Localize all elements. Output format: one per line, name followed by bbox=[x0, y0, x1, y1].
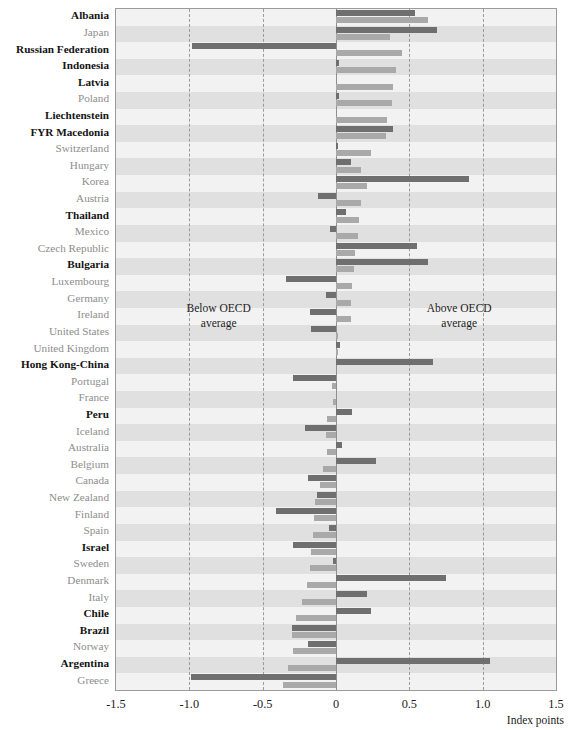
bar-series-2 bbox=[310, 565, 336, 571]
bar-series-1 bbox=[330, 226, 336, 232]
bar-series-2 bbox=[311, 549, 336, 555]
category-label: Australia bbox=[68, 442, 109, 453]
bar-series-2 bbox=[336, 333, 338, 339]
bar-series-1 bbox=[192, 43, 336, 49]
bar-series-1 bbox=[336, 126, 393, 132]
bar-series-2 bbox=[327, 449, 336, 455]
bar-series-2 bbox=[336, 150, 371, 156]
category-label: Israel bbox=[82, 542, 109, 553]
bar-series-1 bbox=[276, 508, 336, 514]
category-label: Ireland bbox=[77, 309, 109, 320]
bar-series-2 bbox=[336, 117, 387, 123]
bar-series-1 bbox=[293, 542, 336, 548]
bar-series-2 bbox=[323, 466, 336, 472]
bar-series-2 bbox=[336, 200, 361, 206]
category-label: Argentina bbox=[61, 658, 109, 669]
category-label: Indonesia bbox=[62, 60, 109, 71]
category-label: Japan bbox=[84, 27, 109, 38]
category-label: Hungary bbox=[70, 160, 109, 171]
bar-series-1 bbox=[310, 309, 336, 315]
bar-series-2 bbox=[336, 133, 386, 139]
bar-series-2 bbox=[326, 432, 336, 438]
bar-series-1 bbox=[336, 243, 417, 249]
gridline bbox=[263, 9, 265, 690]
category-label: Portugal bbox=[71, 376, 109, 387]
category-label: Poland bbox=[78, 93, 109, 104]
bar-series-2 bbox=[327, 416, 336, 422]
bar-series-1 bbox=[333, 558, 336, 564]
bar-series-2 bbox=[293, 648, 336, 654]
category-label: Austria bbox=[76, 193, 109, 204]
bar-series-1 bbox=[336, 591, 367, 597]
bar-series-2 bbox=[336, 316, 351, 322]
bar-series-1 bbox=[308, 475, 336, 481]
bar-series-2 bbox=[336, 283, 352, 289]
bar-series-2 bbox=[336, 84, 393, 90]
category-label: Thailand bbox=[65, 210, 109, 221]
x-axis-tick: 1.5 bbox=[532, 697, 570, 712]
bar-series-1 bbox=[336, 658, 490, 664]
category-label: Latvia bbox=[78, 77, 109, 88]
bar-series-2 bbox=[336, 250, 355, 256]
bar-series-1 bbox=[336, 442, 342, 448]
x-axis-title: Index points bbox=[507, 714, 564, 726]
bar-series-2 bbox=[288, 665, 336, 671]
x-axis-tick: 1.0 bbox=[459, 697, 507, 712]
category-label: Belgium bbox=[70, 459, 109, 470]
bar-series-2 bbox=[314, 515, 336, 521]
category-label: Luxembourg bbox=[51, 276, 109, 287]
bar-series-1 bbox=[336, 359, 433, 365]
category-label: Norway bbox=[73, 641, 109, 652]
bar-series-1 bbox=[336, 259, 428, 265]
x-axis-tick: 0.5 bbox=[385, 697, 433, 712]
category-label: France bbox=[79, 392, 109, 403]
bar-series-2 bbox=[283, 682, 336, 688]
category-label: Canada bbox=[75, 475, 109, 486]
category-label: United States bbox=[49, 326, 109, 337]
category-label: Germany bbox=[67, 293, 109, 304]
bar-series-2 bbox=[333, 399, 336, 405]
bar-series-2 bbox=[320, 482, 336, 488]
category-label: Korea bbox=[82, 176, 109, 187]
gridline bbox=[189, 9, 191, 690]
x-axis-tick: -1.5 bbox=[92, 697, 140, 712]
category-label: Bulgaria bbox=[67, 259, 109, 270]
bar-series-2 bbox=[336, 300, 351, 306]
bar-series-1 bbox=[336, 27, 437, 33]
bar-series-1 bbox=[293, 375, 336, 381]
category-label: Albania bbox=[71, 10, 109, 21]
category-label: Brazil bbox=[80, 625, 109, 636]
bar-series-2 bbox=[336, 100, 392, 106]
category-label: Peru bbox=[86, 409, 109, 420]
bar-series-2 bbox=[296, 615, 336, 621]
bar-series-1 bbox=[318, 193, 336, 199]
bar-series-1 bbox=[336, 93, 339, 99]
bar-series-1 bbox=[329, 525, 336, 531]
category-label: Italy bbox=[88, 592, 109, 603]
bar-series-1 bbox=[336, 10, 415, 16]
category-label: Finland bbox=[75, 509, 109, 520]
bar-series-2 bbox=[336, 349, 338, 355]
bar-series-1 bbox=[305, 425, 336, 431]
category-label: Liechtenstein bbox=[45, 110, 109, 121]
category-label: Denmark bbox=[67, 575, 109, 586]
bar-series-1 bbox=[336, 458, 376, 464]
bar-series-2 bbox=[302, 599, 336, 605]
bar-series-1 bbox=[292, 625, 336, 631]
bar-series-2 bbox=[336, 183, 367, 189]
category-label: Mexico bbox=[75, 226, 109, 237]
bar-series-1 bbox=[336, 608, 371, 614]
category-label: Iceland bbox=[76, 426, 109, 437]
bar-series-1 bbox=[336, 159, 351, 165]
bar-series-1 bbox=[336, 409, 352, 415]
plot-area: Below OECD average Above OECD average bbox=[115, 8, 557, 691]
bar-series-1 bbox=[326, 292, 336, 298]
category-label: Greece bbox=[77, 675, 109, 686]
bar-series-2 bbox=[313, 532, 336, 538]
category-label: Spain bbox=[84, 525, 109, 536]
bar-series-1 bbox=[308, 641, 336, 647]
category-label: New Zealand bbox=[49, 492, 109, 503]
bar-series-1 bbox=[311, 326, 336, 332]
bar-series-1 bbox=[336, 575, 446, 581]
bar-series-2 bbox=[336, 217, 359, 223]
